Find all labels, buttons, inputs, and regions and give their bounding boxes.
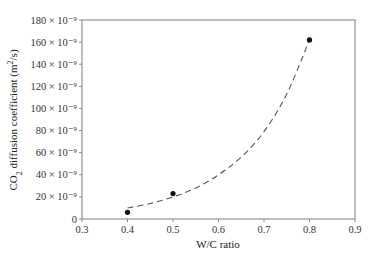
x-tick-label: 0.5: [166, 224, 179, 235]
y-title-pre: CO: [7, 175, 19, 190]
y-axis-ticks: 020 × 10⁻⁹40 × 10⁻⁹60 × 10⁻⁹80 × 10⁻⁹100…: [30, 15, 82, 225]
y-title-post: /s): [7, 49, 20, 60]
fit-curve: [128, 40, 310, 208]
x-tick-label: 0.6: [212, 224, 225, 235]
x-axis-ticks: 0.30.40.50.60.70.80.9: [75, 219, 361, 235]
y-tick-label: 40 × 10⁻⁹: [36, 169, 78, 180]
x-axis-title: W/C ratio: [196, 238, 240, 250]
y-tick-label: 0: [72, 214, 77, 225]
y-tick-label: 160 × 10⁻⁹: [30, 37, 77, 48]
y-tick-label: 80 × 10⁻⁹: [36, 125, 78, 136]
x-tick-label: 0.8: [303, 224, 316, 235]
x-tick-label: 0.3: [75, 224, 88, 235]
x-tick-label: 0.9: [348, 224, 361, 235]
y-title-mid: diffusion coefficient (m: [7, 64, 20, 171]
data-points: [125, 37, 312, 215]
y-tick-label: 120 × 10⁻⁹: [30, 81, 77, 92]
y-tick-label: 20 × 10⁻⁹: [36, 191, 78, 202]
data-point: [307, 37, 312, 42]
plot-border: [82, 20, 355, 219]
x-tick-label: 0.7: [257, 224, 270, 235]
y-tick-label: 60 × 10⁻⁹: [36, 147, 78, 158]
chart: 020 × 10⁻⁹40 × 10⁻⁹60 × 10⁻⁹80 × 10⁻⁹100…: [0, 0, 375, 257]
y-axis-title: CO2 diffusion coefficient (m2/s): [6, 49, 24, 190]
fit-curve-path: [128, 40, 310, 208]
y-tick-label: 100 × 10⁻⁹: [30, 103, 77, 114]
data-point: [170, 191, 175, 196]
plot-frame: [82, 20, 355, 219]
y-tick-label: 140 × 10⁻⁹: [30, 59, 77, 70]
x-tick-label: 0.4: [121, 224, 135, 235]
data-point: [125, 210, 130, 215]
y-tick-label: 180 × 10⁻⁹: [30, 15, 77, 26]
